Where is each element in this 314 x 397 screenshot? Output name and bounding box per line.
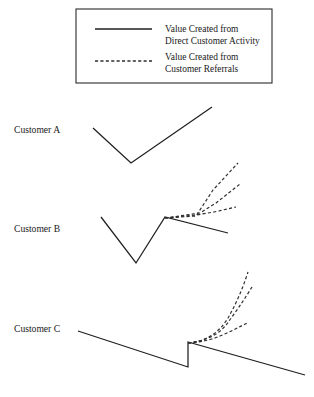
row-label-customer-c: Customer C [14,323,60,334]
row-label-customer-b: Customer B [14,223,60,234]
row-customer-b: Customer B [14,163,240,263]
row-customer-a: Customer A [14,107,212,163]
customer-a-direct-activity-line [93,107,212,163]
legend-entry-0-line1: Value Created from [165,24,239,34]
legend-entry-0-line2: Direct Customer Activity [165,36,260,46]
row-customer-c: Customer C [14,272,305,375]
legend: Value Created from Direct Customer Activ… [76,9,272,83]
legend-entry-1-line2: Customer Referrals [165,64,239,74]
customer-c-direct-activity-line [78,331,305,375]
customer-b-direct-activity-line [101,217,228,263]
customer-c-referral-branch-3 [188,323,247,343]
legend-entry-1-line1: Value Created from [165,52,239,62]
figure-container: Value Created from Direct Customer Activ… [0,0,314,397]
customer-b-referral-branch-2 [165,184,240,218]
row-label-customer-a: Customer A [14,124,60,135]
customer-b-referral-branch-1 [165,163,238,218]
customer-value-diagram: Value Created from Direct Customer Activ… [0,0,314,397]
customer-c-referral-branch-2 [188,287,252,343]
